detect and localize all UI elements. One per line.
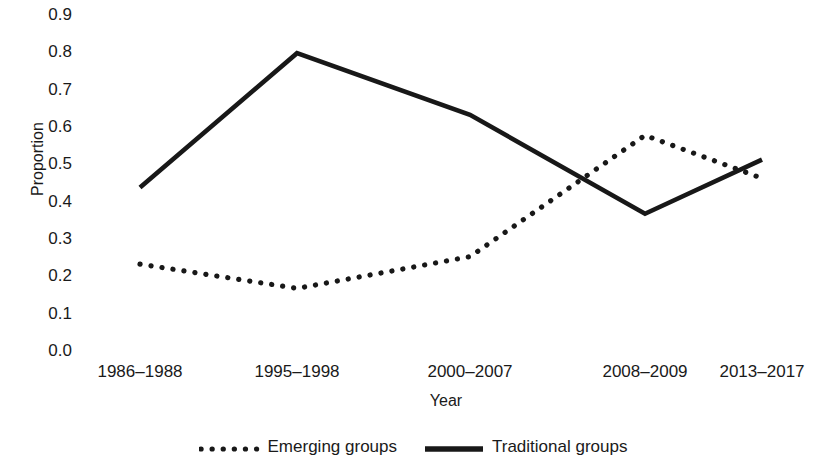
x-axis-tick-labels: 1986–19881995–19982000–20072008–20092013… [80, 362, 812, 388]
series-line-emerging-groups [140, 135, 762, 288]
dotted-line-icon [199, 441, 261, 453]
x-axis-title: Year [80, 392, 812, 410]
x-tick-label: 2000–2007 [400, 362, 540, 382]
line-chart: Proportion 0.00.10.20.30.40.50.60.70.80.… [0, 0, 826, 472]
y-tick-label: 0.5 [28, 155, 72, 172]
y-axis-tick-labels: 0.00.10.20.30.40.50.60.70.80.9 [28, 0, 72, 472]
legend-entry[interactable]: Traditional groups [423, 438, 627, 455]
y-tick-label: 0.8 [28, 43, 72, 60]
solid-line-icon [423, 441, 485, 453]
legend-entry[interactable]: Emerging groups [199, 438, 397, 455]
y-tick-label: 0.3 [28, 230, 72, 247]
y-tick-label: 0.7 [28, 81, 72, 98]
x-tick-label: 1995–1998 [227, 362, 367, 382]
chart-legend: Emerging groupsTraditional groups [0, 438, 826, 455]
y-tick-label: 0.1 [28, 305, 72, 322]
y-tick-label: 0.9 [28, 6, 72, 23]
y-tick-label: 0.2 [28, 267, 72, 284]
y-tick-label: 0.6 [28, 118, 72, 135]
y-tick-label: 0.0 [28, 342, 72, 359]
legend-label: Traditional groups [492, 438, 627, 455]
x-tick-label: 1986–1988 [70, 362, 210, 382]
plot-canvas [80, 6, 812, 358]
y-tick-label: 0.4 [28, 193, 72, 210]
series-line-traditional-groups [140, 53, 762, 214]
x-tick-label: 2013–2017 [692, 362, 826, 382]
legend-label: Emerging groups [268, 438, 397, 455]
plot-area [80, 6, 812, 358]
